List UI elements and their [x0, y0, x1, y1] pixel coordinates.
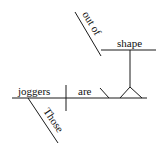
- verb-word: are: [78, 85, 92, 97]
- object-word: shape: [117, 37, 142, 49]
- complement-slant: [100, 88, 109, 98]
- preposition-word: out of: [80, 9, 104, 38]
- sentence-diagram: joggers are shape out of Those: [0, 0, 165, 153]
- modifier-word: Those: [41, 105, 66, 134]
- subject-word: joggers: [17, 85, 50, 97]
- pedestal-triangle: [120, 87, 142, 98]
